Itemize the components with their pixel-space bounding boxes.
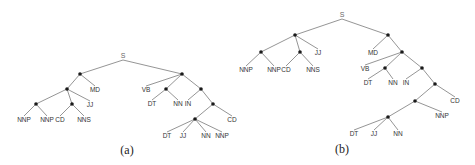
tree-edge <box>295 19 342 35</box>
tree-edge <box>435 84 455 97</box>
internal-node-dot <box>298 50 302 54</box>
tree-edge <box>60 104 72 116</box>
tree-edge <box>195 119 206 132</box>
tree-edge <box>261 52 274 66</box>
internal-node-dot <box>70 102 74 106</box>
internal-node-dot <box>78 72 82 76</box>
tree-edge <box>415 84 435 101</box>
tree-edge <box>388 117 398 130</box>
pos-tag-label: CD <box>450 97 460 104</box>
internal-node-dot <box>413 99 417 103</box>
pos-tag-label: NNP <box>215 132 229 139</box>
tree-edge <box>195 119 222 132</box>
parse-tree-figure: SMDJJNNPNNPCDNNSVBDTNNINCDDTJJNNNNP (a) … <box>0 0 475 165</box>
tree-edge <box>415 101 442 112</box>
pos-tag-label: VB <box>142 86 151 93</box>
tree-edge <box>146 74 182 86</box>
pos-tag-label: DT <box>148 100 157 107</box>
internal-node-dot <box>259 50 263 54</box>
tree-edge <box>300 52 313 66</box>
tree-edge <box>402 52 422 68</box>
parse-tree-b: SJJNNPNNPCDNNSMDVBDTNNINCDNNPDTJJNN (b) <box>239 11 460 156</box>
pos-tag-label: DT <box>163 132 172 139</box>
internal-node-dot <box>180 72 184 76</box>
internal-node-dot <box>65 87 69 91</box>
tree-edge <box>388 35 402 52</box>
tree-edge <box>213 104 232 116</box>
tree-edge <box>183 119 195 132</box>
pos-tag-label: CD <box>227 116 237 123</box>
pos-tag-label: NNP <box>40 116 54 123</box>
internal-node-dot <box>193 117 197 121</box>
tree-edge <box>167 119 195 132</box>
tree-edge <box>373 35 388 49</box>
tree-edge <box>182 74 201 89</box>
tree-edge <box>261 35 295 52</box>
pos-tag-label: NNP <box>435 112 449 119</box>
tree-edge <box>80 60 123 74</box>
tree-edge <box>188 89 201 100</box>
internal-node-dot <box>400 50 404 54</box>
tree-a-nodes: SMDJJNNPNNPCDNNSVBDTNNINCDDTJJNNNNP <box>17 52 237 139</box>
internal-node-dot <box>211 102 215 106</box>
caption-b: (b) <box>335 142 349 156</box>
pos-tag-label: MD <box>90 86 100 93</box>
tree-edge <box>406 68 422 79</box>
pos-tag-label: JJ <box>180 132 187 139</box>
tree-edge <box>166 89 178 100</box>
tree-edge <box>123 60 182 74</box>
tree-edge <box>374 117 388 130</box>
pos-tag-label: IN <box>185 100 192 107</box>
tree-edge <box>385 68 393 79</box>
pos-tag-label: IN <box>403 79 410 86</box>
root-node-label: S <box>340 11 345 18</box>
pos-tag-label: VB <box>361 65 370 72</box>
pos-tag-label: JJ <box>315 49 322 56</box>
tree-edge <box>67 74 80 89</box>
tree-b-edges <box>246 19 455 130</box>
tree-edge <box>388 101 415 117</box>
pos-tag-label: NNS <box>306 66 320 73</box>
internal-node-dot <box>164 87 168 91</box>
pos-tag-label: NNS <box>77 116 91 123</box>
tree-edge <box>36 89 67 104</box>
tree-edge <box>80 74 95 86</box>
internal-node-dot <box>293 33 297 37</box>
tree-edge <box>342 19 388 35</box>
tree-edge <box>72 104 84 116</box>
caption-a: (a) <box>120 143 133 157</box>
pos-tag-label: NNP <box>17 116 31 123</box>
pos-tag-label: NN <box>388 79 398 86</box>
tree-edge <box>201 89 213 104</box>
tree-edge <box>195 104 213 119</box>
tree-edge <box>286 52 300 66</box>
tree-edge <box>368 68 385 79</box>
internal-node-dot <box>199 87 203 91</box>
pos-tag-label: NNP <box>239 66 253 73</box>
tree-edge <box>422 68 435 84</box>
internal-node-dot <box>433 82 437 86</box>
tree-edge <box>24 104 36 116</box>
internal-node-dot <box>383 66 387 70</box>
tree-edge <box>36 104 47 116</box>
tree-edge <box>354 117 388 130</box>
tree-edge <box>385 52 402 68</box>
pos-tag-label: DT <box>364 79 373 86</box>
tree-edge <box>152 89 166 100</box>
pos-tag-label: DT <box>350 130 359 137</box>
pos-tag-label: NN <box>173 100 183 107</box>
pos-tag-label: NN <box>393 130 403 137</box>
tree-edge <box>246 52 261 66</box>
internal-node-dot <box>386 115 390 119</box>
root-node-label: S <box>121 52 126 59</box>
pos-tag-label: JJ <box>87 101 94 108</box>
internal-node-dot <box>420 66 424 70</box>
parse-tree-a: SMDJJNNPNNPCDNNSVBDTNNINCDDTJJNNNNP (a) <box>17 52 237 157</box>
internal-node-dot <box>386 33 390 37</box>
pos-tag-label: JJ <box>371 130 378 137</box>
pos-tag-label: NNP <box>267 66 281 73</box>
pos-tag-label: MD <box>368 49 378 56</box>
pos-tag-label: NN <box>201 132 211 139</box>
pos-tag-label: CD <box>55 116 65 123</box>
pos-tag-label: CD <box>281 66 291 73</box>
